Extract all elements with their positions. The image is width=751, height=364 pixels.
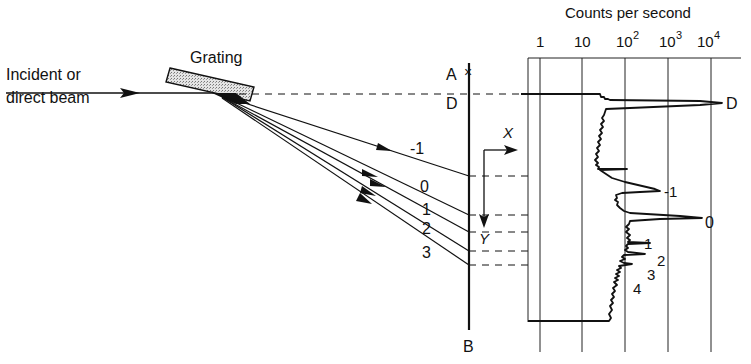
tick-label-10: 10 <box>574 33 591 50</box>
tick-label-1: 1 <box>536 33 544 50</box>
screen-label-d: D <box>446 95 458 112</box>
grating-label: Grating <box>190 49 242 66</box>
counts-plot: Counts per second 1 10 10 2 10 3 10 4 D … <box>521 4 741 352</box>
order-label-1: 1 <box>422 201 431 218</box>
grating-block <box>166 68 254 101</box>
plot-title: Counts per second <box>565 4 691 21</box>
peak-label-d: D <box>726 95 738 112</box>
peak-label-0: 0 <box>705 214 714 231</box>
x-axis-label: X <box>502 124 514 141</box>
diffracted-rays <box>212 93 469 265</box>
peak-label-3: 3 <box>647 266 655 283</box>
svg-text:10: 10 <box>616 33 633 50</box>
ray-order-0 <box>222 96 469 215</box>
svg-text:4: 4 <box>714 29 720 41</box>
incident-beam-label: Incident or direct beam <box>6 66 90 106</box>
grating-diffraction-diagram: Incident or direct beam Grating -1 0 1 2… <box>0 0 751 364</box>
order-label-0: 0 <box>420 178 429 195</box>
intensity-trace <box>521 94 722 321</box>
order-label-3: 3 <box>422 244 431 261</box>
screen-label-a: A <box>446 66 457 83</box>
y-axis-label: Y <box>479 230 490 247</box>
ray-arrow-icon <box>370 179 386 187</box>
xy-axes: X Y <box>479 124 518 247</box>
tick-label-100: 10 2 <box>616 29 639 50</box>
svg-text:3: 3 <box>676 29 682 41</box>
tick-label-10000: 10 4 <box>697 29 720 50</box>
svg-text:10: 10 <box>697 33 714 50</box>
ray-order-2 <box>222 97 469 251</box>
incident-label-line2: direct beam <box>6 89 90 106</box>
order-label-2: 2 <box>422 220 431 237</box>
peak-label-4: 4 <box>633 280 641 297</box>
svg-text:2: 2 <box>633 29 639 41</box>
ray-arrow-icon <box>376 143 392 151</box>
projection-lines <box>469 176 528 265</box>
incident-label-line1: Incident or <box>6 66 81 83</box>
order-label-minus1: -1 <box>410 140 424 157</box>
tick-label-1000: 10 3 <box>659 29 682 50</box>
svg-text:10: 10 <box>659 33 676 50</box>
screen-cross-icon: × <box>464 64 472 80</box>
peak-label-minus1: -1 <box>664 183 677 200</box>
peak-label-2: 2 <box>657 252 665 269</box>
screen-label-b: B <box>463 338 474 355</box>
ray-order-3 <box>222 98 469 265</box>
peak-label-1: 1 <box>644 235 652 252</box>
